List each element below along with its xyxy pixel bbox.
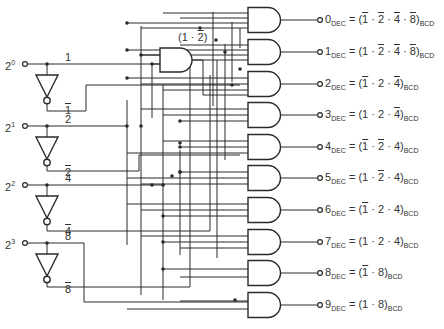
and-gate-8 [248,261,280,286]
junction-dot [178,145,182,149]
junction-dot [125,21,129,25]
junction-dot [45,62,49,66]
and-gates [160,8,280,318]
and-gate-6 [248,197,280,222]
junction-dot [223,50,227,54]
junction-dot [125,124,129,128]
junction-dot [45,241,49,245]
output-label-4: 4DEC = (1 · 2 · 4)BCD [325,140,418,154]
junction-dot [125,48,129,52]
and-gate-3 [248,103,280,128]
junction-dot [170,174,174,178]
output-pin-5 [318,176,323,181]
output-label-3: 3DEC = (1 · 2 · 4)BCD [325,108,418,122]
input-pin-0 [23,62,28,67]
input-pin-3 [23,241,28,246]
junction-dot [150,183,154,187]
junction-dot [45,124,49,128]
input-label-1: 21 [5,119,15,134]
inverter-0 [36,75,58,97]
junction-dot [161,183,165,187]
junction-dot [161,267,165,271]
junction-dot [214,38,218,42]
junction-dot [161,240,165,244]
inverter-bubble-2 [44,218,50,224]
output-label-5: 5DEC = (1 · 2 · 4)BCD [325,171,418,185]
inverter-2 [36,196,58,218]
and-gate-2 [248,72,280,97]
junction-dots [45,21,242,302]
true-line-label-3: 8 [65,230,71,242]
and-gate-1 [248,40,280,65]
wire [47,155,240,171]
junction-dot [139,53,143,57]
input-label-3: 23 [5,236,15,251]
and-gate-4 [248,135,280,160]
wire [47,85,240,111]
input-pin-2 [23,183,28,188]
output-label-9: 9DEC = (1 · 8)BCD [325,298,403,312]
junction-dot [178,170,182,174]
true-line-label-2: 4 [65,172,71,184]
junction-dot [233,298,237,302]
output-label-1: 1DEC = (1 · 2 · 4 · 8)BCD [325,45,434,59]
output-pin-9 [318,303,323,308]
junction-dot [178,119,182,123]
output-pin-8 [318,271,323,276]
inverted-line-label-3: 8 [65,283,71,295]
inverter-3 [36,254,58,276]
output-label-6: 6DEC = (1 · 2 · 4)BCD [325,203,418,217]
junction-dot [150,62,154,66]
true-line-label-0: 1 [65,51,71,63]
junction-dot [125,76,129,80]
input-label-0: 20 [5,57,15,72]
output-label-7: 7DEC = (1 · 2 · 4)BCD [325,235,418,249]
and-gate-7 [248,229,280,254]
intermediate-and-gate [160,48,192,72]
inverter-bubble-3 [44,276,50,282]
output-pin-2 [318,82,323,87]
output-pin-6 [318,208,323,213]
junction-dot [161,214,165,218]
output-pin-4 [318,145,323,150]
junction-dot [230,83,234,87]
junction-dot [198,26,202,30]
output-label-8: 8DEC = (1 · 8)BCD [325,266,403,280]
and-gate-5 [248,166,280,191]
junction-dot [139,124,143,128]
output-pin-0 [318,18,323,23]
output-pin-7 [318,240,323,245]
junction-dot [45,183,49,187]
output-label-0: 0DEC = (1 · 2 · 4 · 8)BCD [325,13,434,27]
and-gate-0 [248,8,280,33]
inverter-bubble-0 [44,97,50,103]
junction-dot [178,141,182,145]
wire [28,243,248,302]
output-label-2: 2DEC = (1 · 2 · 4)BCD [325,77,418,91]
inverter-1 [36,137,58,159]
junction-dot [238,67,242,71]
intermediate-gate-label: (1 · 2) [178,31,207,43]
input-label-2: 22 [5,178,15,193]
output-pin-3 [318,113,323,118]
inverter-bubble-1 [44,159,50,165]
output-pin-1 [318,50,323,55]
input-pin-1 [23,124,28,129]
true-line-label-1: 2 [65,113,71,125]
and-gate-9 [248,293,280,318]
